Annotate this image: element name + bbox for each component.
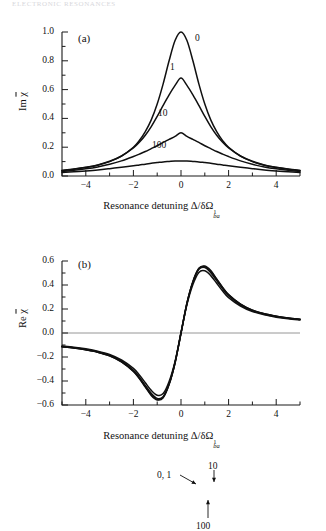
panel-a-x-axis-prefix: Resonance detuning [103, 200, 190, 211]
panel-a: (a) Im χ Resonance detuning Δ/δΩ1ba 1.00… [0, 0, 326, 225]
x-tick-label: −2 [119, 409, 147, 419]
y-tick-label: −0.6 [0, 399, 54, 409]
curve-label-0-1: 0, 1 [157, 470, 171, 480]
y-tick-label: −0.4 [0, 375, 54, 385]
x-tick-label: −4 [72, 180, 100, 190]
panel-b-x-axis-prefix: Resonance detuning [103, 430, 190, 441]
curve-label-10: 10 [208, 461, 218, 471]
y-tick-label: 0.4 [0, 112, 54, 122]
leader-arrow-100 [206, 500, 210, 518]
panel-b-x-axis-symbol: Δ/δΩ [191, 430, 213, 441]
curve-label-100: 100 [196, 521, 210, 531]
curve-label-0: 0 [195, 33, 200, 43]
panel-b: (b) Re χ Resonance detuning Δ/δΩ1ba 0.60… [0, 225, 326, 474]
x-tick-label: 2 [215, 180, 243, 190]
y-tick-label: 0.2 [0, 303, 54, 313]
x-tick-label: 2 [215, 409, 243, 419]
panel-a-x-axis-title: Resonance detuning Δ/δΩ1ba [0, 200, 326, 211]
y-tick-label: 0.6 [0, 255, 54, 265]
y-tick-label: 1.0 [0, 26, 54, 36]
curve-label-1: 1 [170, 62, 175, 72]
curve-label-100: 100 [152, 140, 166, 150]
leader-arrow-10 [212, 470, 216, 482]
panel-b-x-axis-title: Resonance detuning Δ/δΩ1ba [0, 430, 326, 441]
x-tick-label: 4 [262, 180, 290, 190]
y-tick-label: 0.0 [0, 327, 54, 337]
panel-a-x-axis-sub: ba [213, 212, 220, 219]
y-tick-label: 0.4 [0, 279, 54, 289]
x-tick-label: 0 [167, 409, 195, 419]
x-tick-label: 0 [167, 180, 195, 190]
y-tick-label: 0.8 [0, 55, 54, 65]
y-tick-label: −0.2 [0, 351, 54, 361]
leader-arrow-0-1 [180, 475, 196, 484]
y-tick-label: 0.6 [0, 84, 54, 94]
curve-label-10: 10 [158, 108, 168, 118]
x-tick-label: −4 [72, 409, 100, 419]
panel-b-x-axis-sub: ba [213, 442, 220, 449]
curve-0 [62, 32, 300, 171]
x-tick-label: −2 [119, 180, 147, 190]
panel-a-x-axis-symbol: Δ/δΩ [191, 200, 213, 211]
x-tick-label: 4 [262, 409, 290, 419]
curve-1 [62, 78, 300, 170]
y-tick-label: 0.0 [0, 170, 54, 180]
y-tick-label: 0.2 [0, 141, 54, 151]
